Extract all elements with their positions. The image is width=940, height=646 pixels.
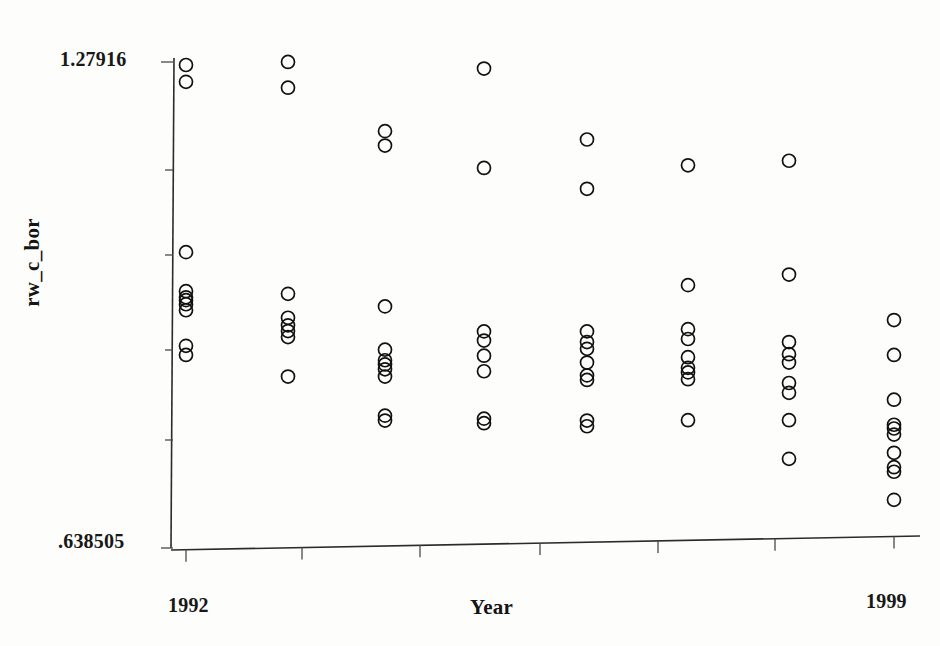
data-point-marker — [282, 311, 295, 324]
data-point-marker — [282, 55, 295, 68]
y-axis-max-label: 1.27916 — [60, 48, 126, 71]
data-point-marker — [888, 446, 901, 459]
data-point-marker — [888, 314, 901, 327]
data-point-marker — [581, 182, 594, 195]
data-point-marker — [682, 279, 695, 292]
data-point-marker — [478, 334, 491, 347]
data-points — [180, 55, 901, 506]
y-axis-title: rw_c_bor — [20, 203, 45, 323]
data-point-marker — [379, 125, 392, 138]
data-point-marker — [888, 348, 901, 361]
data-point-marker — [379, 300, 392, 313]
data-point-marker — [888, 393, 901, 406]
x-axis-title: Year — [470, 595, 513, 620]
y-axis-line — [171, 58, 174, 548]
y-axis-min-label: .638505 — [58, 530, 124, 553]
data-point-marker — [282, 370, 295, 383]
data-point-marker — [783, 268, 796, 281]
data-point-marker — [783, 336, 796, 349]
data-point-marker — [581, 133, 594, 146]
data-point-marker — [888, 493, 901, 506]
data-point-marker — [783, 414, 796, 427]
x-axis-start-label: 1992 — [168, 594, 209, 617]
data-point-marker — [682, 333, 695, 346]
data-point-marker — [282, 287, 295, 300]
data-point-marker — [478, 365, 491, 378]
data-point-marker — [180, 75, 193, 88]
data-point-marker — [282, 81, 295, 94]
data-point-marker — [682, 414, 695, 427]
data-point-marker — [180, 348, 193, 361]
scatter-plot-figure: 1.27916 .638505 1992 1999 rw_c_bor Year — [0, 0, 940, 646]
data-point-marker — [379, 139, 392, 152]
data-point-marker — [478, 62, 491, 75]
data-point-marker — [581, 356, 594, 369]
data-point-marker — [783, 386, 796, 399]
data-point-marker — [783, 452, 796, 465]
axis-lines — [171, 58, 920, 550]
data-point-marker — [180, 246, 193, 259]
x-axis-line — [171, 536, 920, 550]
plot-canvas — [0, 0, 940, 646]
data-point-marker — [478, 349, 491, 362]
data-point-marker — [180, 59, 193, 72]
data-point-marker — [478, 161, 491, 174]
x-axis-end-label: 1999 — [866, 590, 907, 613]
data-point-marker — [682, 159, 695, 172]
data-point-marker — [783, 154, 796, 167]
data-point-marker — [783, 356, 796, 369]
axis-ticks — [161, 62, 894, 562]
